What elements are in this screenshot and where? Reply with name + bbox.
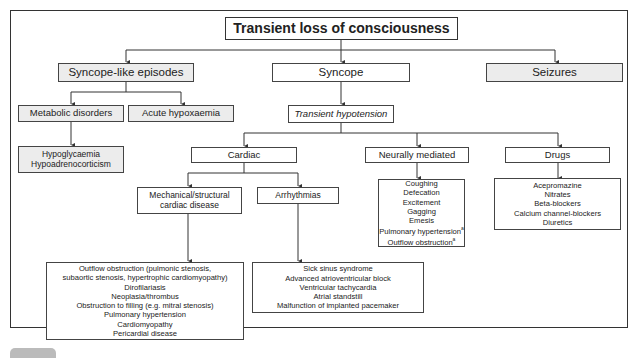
list-item: Pericardial disease: [113, 329, 177, 338]
list-item: Ventricular tachycardia: [300, 283, 377, 292]
node-acute-hypoxaemia: Acute hypoxaemia: [128, 105, 234, 122]
node-label: Syncope: [319, 66, 364, 79]
list-item: Outflow obstruction (pulmonic stenosis,: [79, 264, 211, 273]
node-mechanical-list: Outflow obstruction (pulmonic stenosis, …: [46, 262, 244, 340]
node-syncope: Syncope: [272, 63, 410, 82]
list-item: Atrial standstill: [314, 292, 363, 301]
list-item: Neoplasia/thrombus: [111, 292, 179, 301]
list-item: Emesis: [409, 216, 434, 225]
footnote-mark: a: [461, 225, 464, 231]
node-label: Arrhythmias: [275, 191, 320, 201]
list-item: Malfunction of implanted pacemaker: [277, 301, 399, 310]
node-label: Drugs: [545, 150, 570, 161]
node-label: Transient hypotension: [295, 109, 388, 120]
list-item: Dirofilariasis: [124, 283, 165, 292]
list-item: Advanced atrioventricular block: [285, 274, 391, 283]
list-item: Gagging: [407, 207, 436, 216]
node-metabolic-disorders: Metabolic disorders: [18, 105, 124, 122]
list-item: Defecation: [403, 188, 439, 197]
node-label: Cardiac: [228, 150, 261, 161]
list-item: Excitement: [403, 198, 441, 207]
list-item: Diuretics: [543, 218, 573, 227]
node-transient-hypotension: Transient hypotension: [288, 105, 394, 123]
title-text: Transient loss of consciousness: [233, 20, 449, 36]
node-arrhythmia-list: Sick sinus syndrome Advanced atrioventri…: [252, 262, 424, 313]
node-transient-loss-of-consciousness: Transient loss of consciousness: [225, 17, 458, 40]
node-mechanical-structural-cardiac-disease: Mechanical/structural cardiac disease: [137, 187, 242, 214]
list-item: Pulmonary hypertensiona: [379, 225, 464, 236]
list-item: subaortic stenosis, hypertrophic cardiom…: [62, 273, 227, 282]
list-item: Coughing: [405, 179, 438, 188]
list-item: Nitrates: [544, 190, 570, 199]
figure-label-tab: [10, 348, 56, 358]
node-label: Acute hypoxaemia: [142, 108, 220, 119]
list-item: Pulmonary hypertension: [104, 310, 186, 319]
node-arrhythmias: Arrhythmias: [257, 187, 339, 204]
list-item: Beta-blockers: [534, 199, 580, 208]
node-label: Neurally mediated: [379, 150, 456, 161]
list-item: Acepromazine: [533, 181, 582, 190]
list-item: Sick sinus syndrome: [303, 264, 373, 273]
node-label: Syncope-like episodes: [68, 66, 183, 79]
node-neural-list: Coughing Defecation Excitement Gagging E…: [378, 179, 465, 247]
list-item: Outflow obstructiona: [388, 236, 456, 247]
node-neurally-mediated: Neurally mediated: [365, 147, 469, 163]
node-label: Seizures: [532, 66, 577, 79]
node-label-line: cardiac disease: [160, 201, 219, 211]
list-item: Obstruction to filling (e.g. mitral sten…: [76, 301, 213, 310]
node-cardiac: Cardiac: [191, 147, 297, 163]
node-metabolic-list: Hypoglycaemia Hypoadrenocorticism: [18, 146, 124, 173]
list-item: Hypoadrenocorticism: [31, 160, 111, 170]
list-item: Cardiomyopathy: [117, 320, 172, 329]
node-syncope-like-episodes: Syncope-like episodes: [58, 63, 194, 82]
node-drugs-list: Acepromazine Nitrates Beta-blockers Calc…: [494, 178, 621, 230]
list-item: Calcium channel-blockers: [514, 209, 601, 218]
node-seizures: Seizures: [486, 63, 623, 82]
node-label: Metabolic disorders: [30, 108, 112, 119]
footnote-mark: a: [453, 236, 456, 242]
node-drugs: Drugs: [505, 147, 610, 163]
